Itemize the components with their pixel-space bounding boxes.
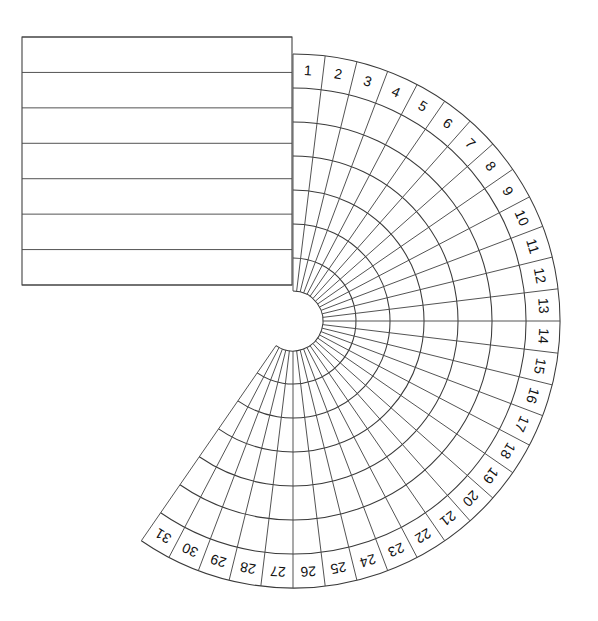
sector-label-26: 26 [300, 563, 317, 580]
sector-label-19: 19 [480, 465, 502, 487]
rectangle-outline [22, 37, 292, 285]
sector-label-17: 17 [512, 414, 533, 435]
sector-divider-16 [321, 332, 543, 416]
sector-label-12: 12 [531, 266, 550, 285]
sector-divider-15 [322, 328, 552, 385]
sector-label-3: 3 [362, 72, 374, 90]
figure-canvas: 1234567891011121314151617181920212223242… [0, 0, 598, 621]
sector-label-10: 10 [512, 207, 533, 228]
sector-divider-22 [307, 348, 417, 558]
sector-label-1: 1 [304, 62, 313, 78]
sector-label-21: 21 [437, 508, 459, 530]
sector-divider-1 [297, 56, 326, 291]
sector-divider-23 [304, 349, 388, 571]
sector-divider-11 [322, 257, 552, 314]
sector-divider-5 [310, 101, 445, 296]
rectangle-block [22, 37, 292, 285]
sector-label-15: 15 [531, 357, 550, 376]
sector-divider-18 [318, 338, 513, 473]
sector-divider-8 [318, 169, 513, 304]
sector-divider-4 [307, 85, 417, 295]
sector-divider-3 [304, 71, 388, 293]
sector-divider-9 [320, 197, 530, 307]
sector-divider-31 [141, 346, 276, 541]
sector-label-24: 24 [358, 551, 378, 571]
sector-label-25: 25 [329, 559, 348, 578]
sector-label-16: 16 [523, 386, 543, 406]
sector-label-22: 22 [412, 525, 434, 547]
sector-divider-27 [261, 351, 290, 586]
sector-label-11: 11 [523, 237, 543, 256]
sector-divider-25 [297, 351, 326, 586]
sector-label-9: 9 [499, 183, 517, 198]
sector-divider-30 [169, 348, 279, 558]
sector-label-29: 29 [208, 551, 228, 571]
sector-label-30: 30 [179, 540, 200, 561]
sector-divider-14 [323, 325, 558, 354]
sector-divider-28 [229, 350, 286, 580]
sector-label-8: 8 [482, 158, 500, 174]
sector-label-7: 7 [462, 135, 479, 152]
radial-grid-svg: 1234567891011121314151617181920212223242… [0, 0, 598, 621]
ring-arc-0 [276, 291, 323, 351]
sector-label-18: 18 [497, 440, 519, 462]
sector-divider-24 [300, 350, 357, 580]
sector-divider-21 [310, 346, 445, 541]
sector-label-28: 28 [238, 559, 257, 578]
sector-label-2: 2 [333, 65, 344, 82]
sector-label-27: 27 [269, 563, 286, 580]
sector-divider-10 [321, 226, 543, 310]
sector-label-13: 13 [535, 297, 552, 314]
sector-divider-17 [320, 335, 530, 445]
sector-label-4: 4 [389, 83, 403, 101]
sector-divider-2 [300, 62, 357, 292]
sector-label-23: 23 [386, 540, 407, 561]
sector-label-6: 6 [440, 114, 456, 132]
sector-label-14: 14 [535, 328, 552, 345]
sector-label-20: 20 [459, 487, 482, 510]
sector-label-31: 31 [152, 525, 174, 547]
sector-divider-12 [323, 289, 558, 318]
sector-divider-29 [198, 349, 282, 571]
sector-label-5: 5 [415, 97, 430, 115]
